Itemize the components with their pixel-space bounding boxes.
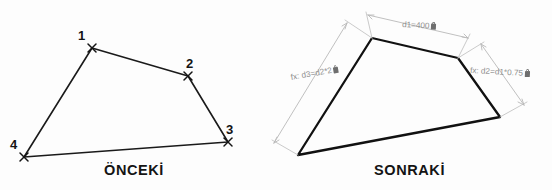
after-polygon-path <box>298 38 500 155</box>
dimension-d3 <box>272 20 372 155</box>
dimension-label-d1: d1=400 <box>402 21 436 31</box>
caption-after: SONRAKİ <box>374 163 445 178</box>
vertex-label-4: 4 <box>10 138 17 151</box>
vertex-label-2: 2 <box>186 57 193 70</box>
after-polygon <box>298 38 500 155</box>
diagram-screenshot: 1 2 3 4 d1=400 fx: d2=d1*0.75 fx: d3=d2*… <box>0 0 552 190</box>
dimension-label-d1-text: d1=400 <box>402 21 430 31</box>
lock-icon <box>333 67 339 74</box>
before-polygon-path <box>24 48 228 157</box>
caption-before: ÖNCEKİ <box>104 163 164 178</box>
vertex-label-1: 1 <box>78 29 85 42</box>
lock-icon <box>524 71 529 77</box>
before-polygon <box>24 48 228 157</box>
vertex-label-3: 3 <box>226 123 233 136</box>
lock-icon <box>431 24 436 30</box>
dimension-d1 <box>366 12 470 58</box>
